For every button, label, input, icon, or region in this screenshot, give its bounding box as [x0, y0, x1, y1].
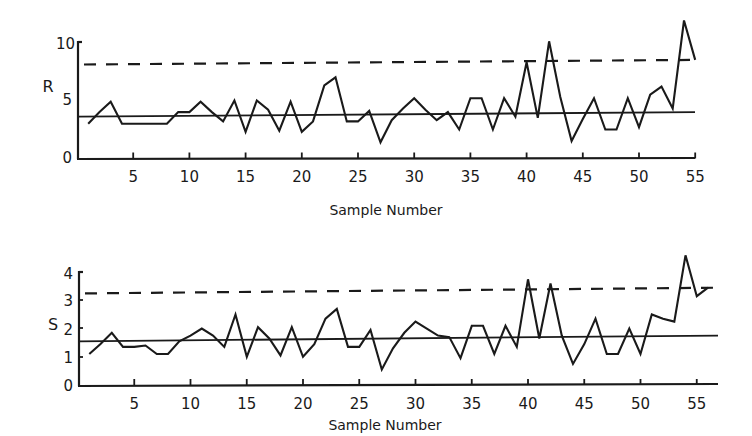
r-xtick-label: 25	[348, 168, 367, 186]
r-plot-area	[78, 21, 695, 143]
s-xtick-label: 20	[293, 395, 312, 413]
s-upper-control-limit	[85, 288, 718, 294]
s-ytick-0: 0	[63, 377, 73, 395]
r-x-axis	[77, 158, 695, 159]
r-ytick-10: 10	[56, 35, 75, 53]
s-xtick-label: 50	[631, 395, 650, 413]
r-xtick-label: 15	[236, 168, 255, 186]
s-y-axis-label: S	[48, 315, 58, 334]
control-chart-figure: 0 5 10 R 5 10 15 20 25 30 35 40 45 50 55…	[0, 0, 752, 436]
r-x-axis-label: Sample Number	[329, 202, 442, 218]
s-x-tick-labels: 5 10 15 20 25 30 35 40 45 50 55	[129, 395, 706, 413]
s-ytick-4: 4	[63, 265, 73, 283]
r-xtick-label: 55	[686, 168, 705, 186]
r-xtick-label: 40	[517, 168, 536, 186]
r-upper-control-limit	[84, 60, 695, 65]
r-xtick-label: 50	[629, 168, 648, 186]
r-xtick-label: 45	[573, 168, 592, 186]
s-xtick-label: 25	[350, 395, 369, 413]
s-ytick-1: 1	[63, 349, 73, 367]
r-xtick-label: 10	[180, 168, 199, 186]
r-ytick-0: 0	[62, 149, 72, 167]
s-y-tick-labels: 0 1 2 3 4	[63, 265, 73, 395]
r-y-axis-label: R	[42, 77, 53, 96]
s-data-line	[89, 255, 708, 369]
s-x-axis-label: Sample Number	[328, 417, 441, 433]
r-xtick-label: 5	[128, 168, 138, 186]
s-ytick-2: 2	[63, 321, 73, 339]
r-ytick-5: 5	[62, 91, 72, 109]
r-chart: 0 5 10 R 5 10 15 20 25 30 35 40 45 50 55…	[42, 21, 704, 219]
r-center-line	[78, 112, 695, 117]
r-xtick-label: 20	[292, 168, 311, 186]
r-x-tick-labels: 5 10 15 20 25 30 35 40 45 50 55	[128, 168, 704, 186]
s-plot-area	[79, 255, 718, 369]
s-xtick-label: 15	[237, 395, 256, 413]
s-x-axis	[78, 384, 718, 386]
r-xtick-label: 35	[461, 168, 480, 186]
s-xtick-label: 5	[129, 395, 139, 413]
r-y-tick-labels: 0 5 10	[56, 35, 75, 167]
r-xtick-label: 30	[405, 168, 424, 186]
s-ytick-3: 3	[63, 292, 73, 310]
s-xtick-label: 35	[462, 395, 481, 413]
s-xtick-label: 10	[181, 395, 200, 413]
s-xtick-label: 55	[687, 395, 706, 413]
s-xtick-label: 30	[406, 395, 425, 413]
s-chart: 0 1 2 3 4 S 5 10 15 20 25 30 35 40 45 50…	[48, 255, 718, 433]
s-xtick-label: 40	[518, 395, 537, 413]
s-xtick-label: 45	[575, 395, 594, 413]
r-data-line	[88, 21, 695, 143]
